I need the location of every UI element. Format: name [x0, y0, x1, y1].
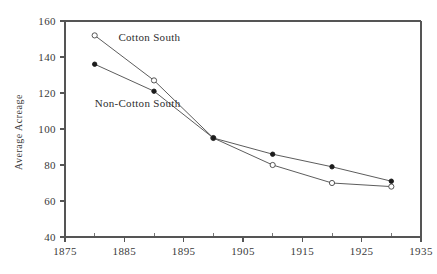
data-point-marker: [329, 180, 334, 185]
chart-background: [0, 0, 437, 274]
chart-figure: Average Acreage 406080100120140160 18751…: [0, 0, 437, 274]
x-tick-label: 1875: [53, 245, 77, 257]
y-tick-label: 120: [38, 87, 56, 99]
x-tick-label: 1905: [231, 245, 255, 257]
x-tick-label: 1935: [409, 245, 433, 257]
data-point-marker: [330, 165, 334, 169]
y-tick-label: 60: [44, 195, 56, 207]
data-point-marker: [151, 78, 156, 83]
data-point-marker: [270, 162, 275, 167]
data-point-marker: [152, 89, 156, 93]
y-tick-label: 80: [44, 159, 56, 171]
line-chart: Average Acreage 406080100120140160 18751…: [0, 0, 437, 274]
x-tick-label: 1885: [113, 245, 137, 257]
y-tick-label: 140: [38, 51, 56, 63]
x-tick-label: 1915: [291, 245, 315, 257]
y-axis-title: Average Acreage: [13, 94, 24, 170]
x-tick-label: 1925: [350, 245, 374, 257]
y-tick-label: 100: [38, 123, 56, 135]
y-axis-title-text: Average Acreage: [13, 94, 24, 170]
y-tick-label: 160: [38, 15, 56, 27]
data-point-marker: [92, 33, 97, 38]
data-point-marker: [92, 62, 96, 66]
series-label-cotton-south: Cotton South: [118, 31, 180, 43]
x-tick-label: 1895: [172, 245, 196, 257]
data-point-marker: [211, 136, 215, 140]
data-point-marker: [389, 184, 394, 189]
series-label-non-cotton-south: Non-Cotton South: [95, 97, 181, 109]
data-point-marker: [270, 152, 274, 156]
data-point-marker: [389, 179, 393, 183]
y-tick-label: 40: [44, 231, 56, 243]
